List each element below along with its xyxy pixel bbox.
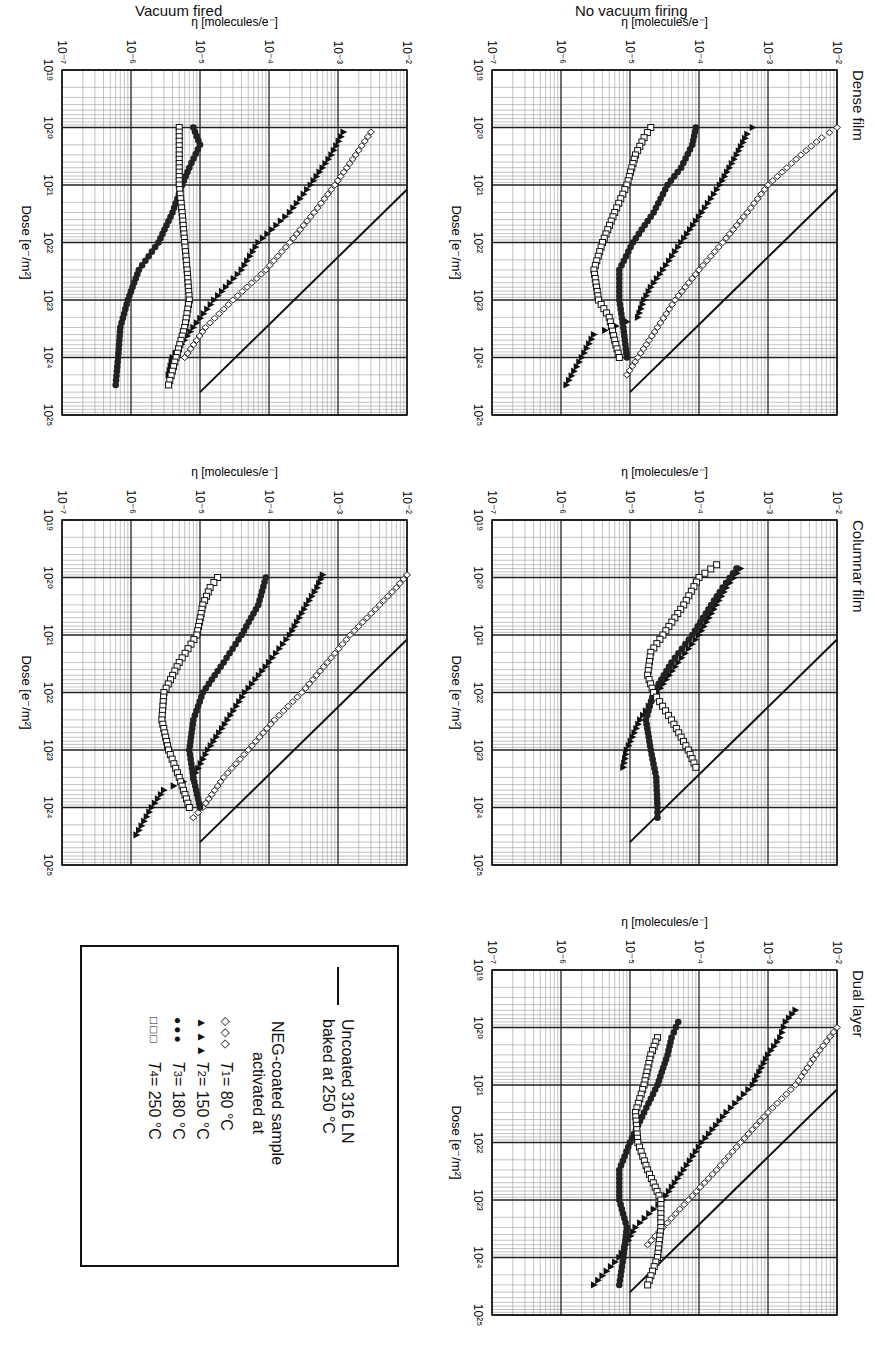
legend-entry-t3: ●●●T3 = 180 °C	[169, 1017, 187, 1140]
circle-filled-icon: ●●●	[171, 1017, 185, 1061]
legend-neg-heading: NEG-coated sampleactivated at	[249, 1021, 287, 1165]
svg-text:10²⁰: 10²⁰	[471, 1016, 485, 1038]
svg-text:10²²: 10²²	[471, 232, 485, 253]
legend-entry-t4: □□□T4 = 250 °C	[145, 1017, 163, 1140]
svg-text:10²⁴: 10²⁴	[41, 346, 55, 369]
svg-text:10⁻⁷: 10⁻⁷	[485, 940, 499, 964]
legend-var: T	[217, 1061, 235, 1071]
svg-text:10¹⁹: 10¹⁹	[41, 509, 55, 531]
panel-title-dense: Dense film	[850, 70, 867, 141]
svg-text:10²³: 10²³	[471, 739, 485, 760]
svg-text:η [molecules/e⁻]: η [molecules/e⁻]	[191, 465, 278, 479]
svg-text:10²⁰: 10²⁰	[471, 566, 485, 588]
panel-title-dual: Dual layer	[850, 970, 867, 1038]
legend-neg-label-2: activated at	[250, 1052, 267, 1134]
svg-text:10⁻⁶: 10⁻⁶	[124, 40, 138, 64]
legend-box: Uncoated 316 LNbaked at 250 °C NEG-coate…	[80, 945, 399, 1267]
svg-text:10⁻⁴: 10⁻⁴	[692, 489, 706, 514]
svg-text:η [molecules/e⁻]: η [molecules/e⁻]	[621, 465, 708, 479]
svg-text:10²²: 10²²	[471, 1132, 485, 1153]
svg-text:10⁻⁵: 10⁻⁵	[623, 940, 637, 964]
plot-dense-vacuum-fired: 10¹⁹10²⁰10²¹10²²10²³10²⁴10²⁵10⁻²10⁻³10⁻⁴…	[0, 0, 417, 440]
svg-text:10²⁵: 10²⁵	[41, 404, 55, 426]
svg-text:10²⁰: 10²⁰	[471, 116, 485, 138]
svg-text:10²⁵: 10²⁵	[471, 1304, 485, 1326]
svg-text:10⁻³: 10⁻³	[331, 41, 345, 64]
svg-text:10⁻⁷: 10⁻⁷	[55, 490, 69, 514]
svg-text:10⁻³: 10⁻³	[331, 491, 345, 514]
svg-text:10²⁵: 10²⁵	[471, 404, 485, 426]
svg-text:10²¹: 10²¹	[41, 174, 55, 195]
svg-text:10⁻²: 10⁻²	[400, 41, 414, 64]
legend-text: = 180 °C	[169, 1077, 187, 1140]
svg-text:10²¹: 10²¹	[471, 174, 485, 195]
svg-text:10⁻²: 10⁻²	[830, 41, 844, 64]
svg-text:10⁻³: 10⁻³	[761, 941, 775, 964]
svg-text:10⁻⁷: 10⁻⁷	[55, 40, 69, 64]
legend-text: = 150 °C	[193, 1077, 211, 1140]
svg-text:10⁻⁶: 10⁻⁶	[554, 940, 568, 964]
svg-text:10²²: 10²²	[41, 682, 55, 703]
svg-text:10¹⁹: 10¹⁹	[41, 59, 55, 81]
diamond-open-icon: ◇◇◇	[219, 1017, 233, 1061]
svg-text:10⁻²: 10⁻²	[400, 491, 414, 514]
svg-text:10²⁴: 10²⁴	[471, 796, 485, 819]
legend-neg-label-1: NEG-coated sample	[269, 1021, 286, 1165]
svg-text:10²³: 10²³	[41, 739, 55, 760]
panel-title-columnar: Columnar film	[850, 520, 867, 613]
svg-text:10⁻⁶: 10⁻⁶	[554, 40, 568, 64]
svg-text:10²²: 10²²	[471, 682, 485, 703]
svg-text:10²⁵: 10²⁵	[41, 854, 55, 876]
svg-text:10⁻⁶: 10⁻⁶	[554, 490, 568, 514]
svg-text:10²⁰: 10²⁰	[41, 116, 55, 138]
svg-text:Dose [e⁻/m²]: Dose [e⁻/m²]	[449, 205, 464, 279]
svg-text:10⁻⁶: 10⁻⁶	[124, 490, 138, 514]
svg-text:Dose [e⁻/m²]: Dose [e⁻/m²]	[449, 1105, 464, 1179]
svg-text:10²¹: 10²¹	[471, 1074, 485, 1095]
svg-text:10⁻⁴: 10⁻⁴	[692, 39, 706, 64]
svg-text:10¹⁹: 10¹⁹	[471, 509, 485, 531]
svg-text:Dose [e⁻/m²]: Dose [e⁻/m²]	[449, 655, 464, 729]
svg-text:10⁻⁴: 10⁻⁴	[262, 489, 276, 514]
legend-var: T	[193, 1061, 211, 1071]
legend-uncoated-label-1: Uncoated 316 LN	[339, 1019, 356, 1144]
svg-text:10²³: 10²³	[41, 289, 55, 310]
svg-text:10²⁴: 10²⁴	[471, 346, 485, 369]
svg-text:10²⁴: 10²⁴	[41, 796, 55, 819]
svg-text:Dose [e⁻/m²]: Dose [e⁻/m²]	[19, 205, 34, 279]
svg-text:10⁻⁵: 10⁻⁵	[623, 40, 637, 64]
legend-text: = 80 °C	[217, 1077, 235, 1131]
legend-uncoated: Uncoated 316 LNbaked at 250 °C	[319, 967, 357, 1144]
svg-text:η [molecules/e⁻]: η [molecules/e⁻]	[621, 15, 708, 29]
svg-text:10⁻⁵: 10⁻⁵	[623, 490, 637, 514]
plot-columnar-vacuum-fired: 10¹⁹10²⁰10²¹10²²10²³10²⁴10²⁵10⁻²10⁻³10⁻⁴…	[0, 450, 417, 890]
triangle-filled-icon: ▲▲▲	[195, 1017, 209, 1061]
plot-dual-layer-no-vacuum-firing: 10¹⁹10²⁰10²¹10²²10²³10²⁴10²⁵10⁻²10⁻³10⁻⁴…	[427, 900, 847, 1340]
svg-text:10⁻²: 10⁻²	[830, 941, 844, 964]
svg-text:10⁻⁵: 10⁻⁵	[193, 490, 207, 514]
svg-text:10⁻⁷: 10⁻⁷	[485, 40, 499, 64]
svg-text:10²²: 10²²	[41, 232, 55, 253]
plot-columnar-no-vacuum-firing: 10¹⁹10²⁰10²¹10²²10²³10²⁴10²⁵10⁻²10⁻³10⁻⁴…	[427, 450, 847, 890]
svg-text:10²⁵: 10²⁵	[471, 854, 485, 876]
svg-text:10⁻³: 10⁻³	[761, 491, 775, 514]
svg-text:10⁻⁷: 10⁻⁷	[485, 490, 499, 514]
svg-text:η [molecules/e⁻]: η [molecules/e⁻]	[621, 915, 708, 929]
legend-var: T	[145, 1061, 163, 1071]
svg-text:10²¹: 10²¹	[41, 624, 55, 645]
legend-line-icon	[337, 967, 339, 1005]
svg-text:η [molecules/e⁻]: η [molecules/e⁻]	[191, 15, 278, 29]
square-open-icon: □□□	[147, 1017, 161, 1061]
svg-text:10¹⁹: 10¹⁹	[471, 59, 485, 81]
svg-text:10²⁴: 10²⁴	[471, 1246, 485, 1269]
svg-text:10²³: 10²³	[471, 289, 485, 310]
legend-text: = 250 °C	[145, 1077, 163, 1140]
svg-text:10²³: 10²³	[471, 1189, 485, 1210]
legend-entry-t1: ◇◇◇T1 = 80 °C	[217, 1017, 235, 1131]
svg-text:10⁻⁵: 10⁻⁵	[193, 40, 207, 64]
legend-var: T	[169, 1061, 187, 1071]
figure: Dense film Columnar film Dual layer No v…	[0, 0, 875, 1355]
svg-text:10²⁰: 10²⁰	[41, 566, 55, 588]
svg-text:10⁻⁴: 10⁻⁴	[262, 39, 276, 64]
legend-entry-t2: ▲▲▲T2 = 150 °C	[193, 1017, 211, 1140]
